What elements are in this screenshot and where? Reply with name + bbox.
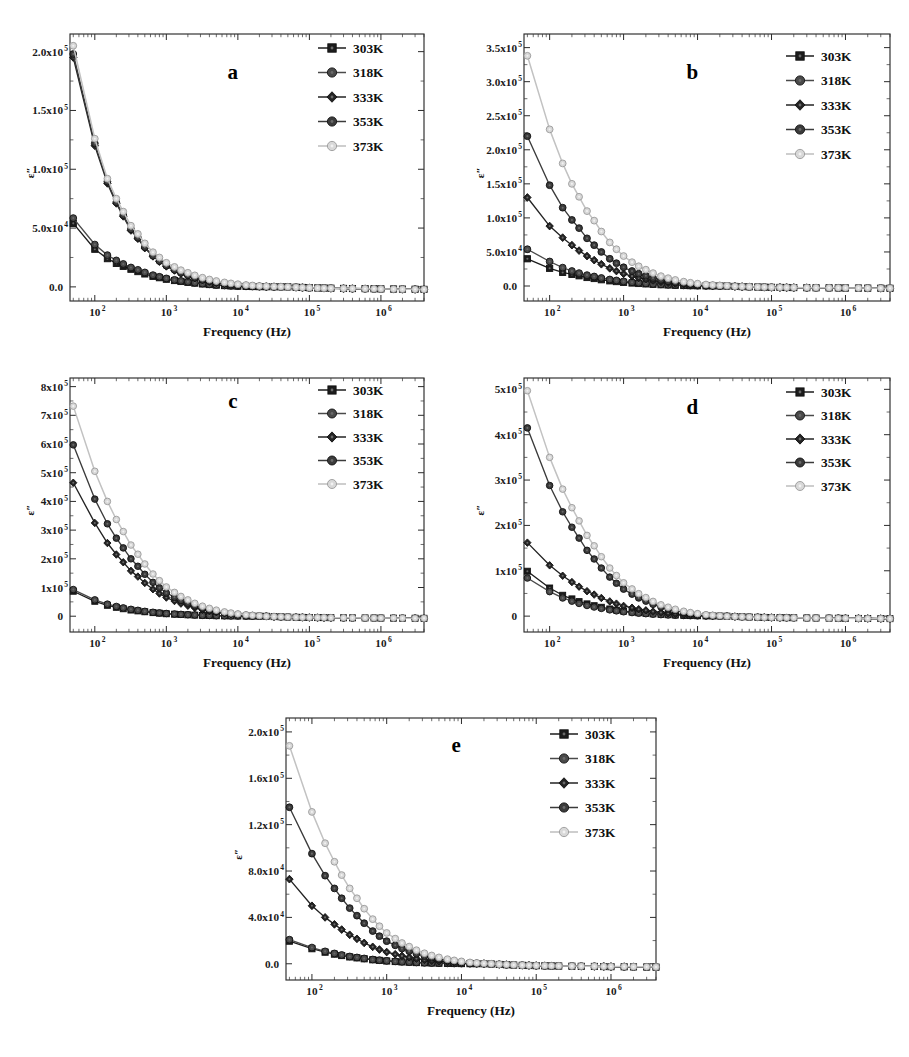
marker-e-373K-23 — [481, 960, 488, 967]
marker-a-373K-38 — [378, 286, 385, 293]
marker-c-353K-7 — [142, 571, 149, 578]
curve-d-333K — [527, 543, 890, 619]
marker-c-373K-29 — [299, 614, 306, 621]
x-tick-label-e-0: 102 — [306, 983, 323, 997]
marker-c-353K-5 — [128, 556, 135, 563]
marker-a-373K-30 — [306, 284, 313, 291]
legend-b[interactable]: 303K318K333K353K373K — [786, 49, 852, 162]
marker-c-373K-0 — [70, 403, 77, 410]
marker-a-373K-0 — [70, 42, 77, 49]
marker-b-373K-5 — [584, 208, 591, 215]
legend-item-a-303K[interactable]: 303K — [318, 41, 384, 56]
legend-item-e-303K[interactable]: 303K — [550, 727, 616, 742]
legend-marker-303K — [328, 386, 336, 394]
legend-item-e-318K[interactable]: 318K — [550, 751, 616, 766]
legend-item-d-373K[interactable]: 373K — [786, 479, 852, 494]
svg-text:3: 3 — [631, 635, 635, 644]
y-tick-label-a-1: 5.0x104 — [32, 220, 68, 234]
svg-text:0.0: 0.0 — [503, 280, 517, 292]
svg-text:0: 0 — [511, 610, 517, 622]
y-tick-label-e-5: 2.0x105 — [248, 724, 284, 738]
x-tick-label-c-0: 102 — [89, 635, 106, 649]
legend-label-303K: 303K — [353, 383, 384, 398]
marker-d-373K-2 — [559, 486, 566, 493]
y-tick-label-d-2: 2x105 — [495, 518, 523, 532]
legend-item-a-333K[interactable]: 333K — [318, 90, 384, 105]
marker-b-303K-1 — [547, 265, 553, 271]
marker-e-373K-21 — [467, 959, 474, 966]
marker-c-373K-20 — [235, 611, 242, 618]
marker-b-353K-2 — [559, 204, 566, 211]
marker-a-373K-17 — [213, 278, 220, 285]
marker-b-318K-9 — [613, 277, 620, 284]
svg-text:5: 5 — [64, 379, 68, 388]
legend-item-a-318K[interactable]: 318K — [318, 65, 384, 80]
legend-a[interactable]: 303K318K333K353K373K — [318, 41, 384, 154]
svg-text:5: 5 — [779, 304, 783, 313]
svg-text:8x10: 8x10 — [41, 381, 64, 393]
marker-e-373K-29 — [526, 962, 533, 969]
legend-item-e-353K[interactable]: 353K — [550, 800, 616, 815]
marker-e-333K-10 — [383, 948, 390, 956]
legend-item-c-303K[interactable]: 303K — [318, 383, 384, 398]
legend-d[interactable]: 303K318K333K353K373K — [786, 385, 852, 494]
svg-text:2.0x10: 2.0x10 — [486, 144, 517, 156]
marker-a-318K-7 — [141, 269, 148, 276]
legend-item-b-318K[interactable]: 318K — [786, 73, 852, 88]
svg-text:2.0x10: 2.0x10 — [248, 726, 279, 738]
legend-item-c-333K[interactable]: 333K — [318, 430, 384, 445]
marker-b-373K-20 — [694, 280, 701, 287]
series-a-353K — [70, 51, 428, 293]
panel-letter-e: e — [452, 733, 461, 757]
marker-e-373K-6 — [354, 895, 361, 902]
legend-item-c-318K[interactable]: 318K — [318, 406, 384, 421]
legend-item-a-353K[interactable]: 353K — [318, 114, 384, 129]
legend-item-b-353K[interactable]: 353K — [786, 122, 852, 137]
legend-item-d-353K[interactable]: 353K — [786, 455, 852, 470]
legend-item-e-333K[interactable]: 333K — [550, 776, 616, 791]
svg-text:10: 10 — [618, 306, 630, 318]
marker-d-373K-34 — [804, 615, 811, 622]
legend-item-a-373K[interactable]: 373K — [318, 139, 384, 154]
marker-c-373K-1 — [92, 468, 99, 475]
marker-e-373K-13 — [406, 943, 413, 950]
legend-e[interactable]: 303K318K333K353K373K — [550, 727, 616, 840]
marker-b-318K-2 — [559, 264, 566, 271]
marker-a-373K-2 — [104, 175, 111, 182]
marker-b-373K-13 — [642, 266, 649, 273]
marker-a-373K-16 — [206, 276, 213, 283]
marker-c-373K-4 — [120, 528, 127, 535]
legend-item-b-373K[interactable]: 373K — [786, 147, 852, 162]
legend-item-b-333K[interactable]: 333K — [786, 98, 852, 113]
legend-label-373K: 373K — [585, 825, 616, 840]
svg-text:1.2x10: 1.2x10 — [248, 819, 279, 831]
legend-label-373K: 373K — [353, 477, 384, 492]
legend-item-d-333K[interactable]: 333K — [786, 432, 852, 447]
legend-item-b-303K[interactable]: 303K — [786, 49, 852, 64]
svg-text:10: 10 — [766, 306, 778, 318]
marker-e-373K-0 — [286, 742, 293, 749]
legend-item-d-303K[interactable]: 303K — [786, 385, 852, 400]
marker-b-373K-31 — [777, 284, 784, 291]
marker-d-373K-13 — [643, 594, 650, 601]
marker-c-373K-17 — [213, 607, 220, 614]
legend-item-c-353K[interactable]: 353K — [318, 453, 384, 468]
y-tick-label-a-4: 2.0x105 — [32, 44, 68, 58]
svg-text:10: 10 — [840, 637, 852, 649]
marker-b-373K-25 — [732, 283, 739, 290]
marker-e-318K-2 — [322, 948, 329, 955]
marker-a-318K-3 — [113, 257, 120, 264]
legend-item-d-318K[interactable]: 318K — [786, 408, 852, 423]
x-tick-label-b-3: 105 — [766, 304, 783, 318]
marker-b-373K-28 — [754, 284, 761, 291]
legend-c[interactable]: 303K318K333K353K373K — [318, 383, 384, 492]
marker-d-353K-10 — [620, 586, 627, 593]
marker-a-373K-37 — [371, 285, 378, 292]
legend-item-c-373K[interactable]: 373K — [318, 477, 384, 492]
y-axis-title-c: ε″ — [24, 505, 36, 516]
legend-item-e-373K[interactable]: 373K — [550, 825, 616, 840]
marker-a-373K-1 — [91, 135, 98, 142]
y-tick-label-d-4: 4x105 — [495, 427, 523, 441]
svg-text:10: 10 — [544, 306, 556, 318]
svg-text:4x10: 4x10 — [495, 429, 518, 441]
